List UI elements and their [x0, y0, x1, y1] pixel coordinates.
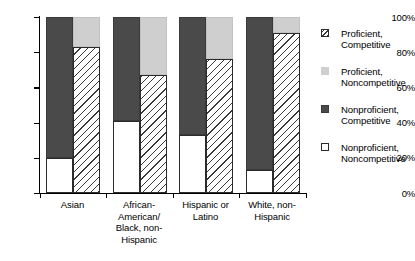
- segment-proficient-noncompetitive: [140, 17, 167, 75]
- segment-proficient-competitive: [73, 47, 100, 193]
- segment-proficient-noncompetitive: [73, 17, 100, 47]
- category-line: White, non-: [248, 199, 295, 210]
- y-tick-0: [34, 193, 39, 194]
- segment-nonproficient-noncompetitive: [246, 170, 273, 193]
- legend-label: Proficient, Noncompetitive: [341, 66, 415, 89]
- legend-label-line2: Competitive: [341, 115, 415, 126]
- segment-proficient-competitive: [273, 33, 300, 193]
- legend-label: Nonproficient, Competitive: [341, 104, 415, 127]
- y-tick-80: [34, 52, 39, 53]
- category-line: Hispanic: [182, 199, 218, 210]
- legend-label-line1: Nonproficient,: [341, 142, 415, 153]
- y-axis-label-100: 100%: [382, 13, 415, 23]
- y-axis-label-0: 0%: [382, 189, 415, 199]
- category-line: Asian: [61, 199, 84, 210]
- legend-label-line2: Competitive: [341, 39, 415, 50]
- legend-label-line1: Nonproficient,: [341, 104, 415, 115]
- segment-proficient-noncompetitive: [206, 17, 233, 59]
- x-tick-3: [239, 193, 240, 198]
- legend-label: Proficient, Competitive: [341, 28, 415, 51]
- segment-proficient-noncompetitive: [273, 17, 300, 33]
- category-label-asian: Asian: [39, 199, 106, 211]
- segment-nonproficient-competitive: [246, 17, 273, 170]
- legend-label-line2: Noncompetitive: [341, 77, 415, 88]
- stacked-bar-chart: 100% 80% 60% 40% 20% 0%: [0, 0, 415, 261]
- category-label-white: White, non- Hispanic: [239, 199, 306, 222]
- x-tick-0: [40, 193, 41, 198]
- segment-proficient-competitive: [206, 59, 233, 193]
- legend-swatch-lightgray-icon: [321, 67, 329, 75]
- segment-nonproficient-competitive: [46, 17, 73, 158]
- segment-nonproficient-noncompetitive: [179, 135, 206, 193]
- category-label-african-american: African- American/ Black, non- Hispanic: [106, 199, 173, 245]
- segment-nonproficient-competitive: [113, 17, 140, 121]
- category-line: American/: [118, 211, 160, 222]
- bar-proficient-white: [273, 17, 300, 193]
- plot-area: [40, 17, 305, 193]
- bar-nonproficient-hispanic: [179, 17, 206, 193]
- y-tick-100: [34, 17, 39, 18]
- category-line: Hispanic: [254, 211, 290, 222]
- category-line: Black, non-: [116, 222, 162, 233]
- x-tick-2: [173, 193, 174, 198]
- legend-swatch-hatch-icon: [321, 29, 329, 37]
- bar-nonproficient-asian: [46, 17, 73, 193]
- category-line: Hispanic: [121, 234, 157, 245]
- x-tick-4: [306, 193, 307, 198]
- segment-nonproficient-noncompetitive: [46, 158, 73, 193]
- legend-label-line2: Noncompetitive: [341, 153, 415, 164]
- bar-proficient-asian: [73, 17, 100, 193]
- bar-proficient-hispanic: [206, 17, 233, 193]
- legend-label-line1: Proficient,: [341, 66, 415, 77]
- y-tick-60: [34, 87, 39, 88]
- segment-nonproficient-noncompetitive: [113, 121, 140, 193]
- x-tick-1: [106, 193, 107, 198]
- category-line: African-: [123, 199, 155, 210]
- legend-label-line1: Proficient,: [341, 28, 415, 39]
- category-label-hispanic: Hispanic or Latino: [172, 199, 239, 222]
- y-tick-40: [34, 123, 39, 124]
- segment-nonproficient-competitive: [179, 17, 206, 135]
- bar-nonproficient-african-american: [113, 17, 140, 193]
- legend-label: Nonproficient, Noncompetitive: [341, 142, 415, 165]
- legend-swatch-white-icon: [321, 143, 329, 151]
- y-tick-20: [34, 158, 39, 159]
- bar-nonproficient-white: [246, 17, 273, 193]
- segment-proficient-competitive: [140, 75, 167, 193]
- bar-proficient-african-american: [140, 17, 167, 193]
- legend-swatch-dark-icon: [321, 105, 329, 113]
